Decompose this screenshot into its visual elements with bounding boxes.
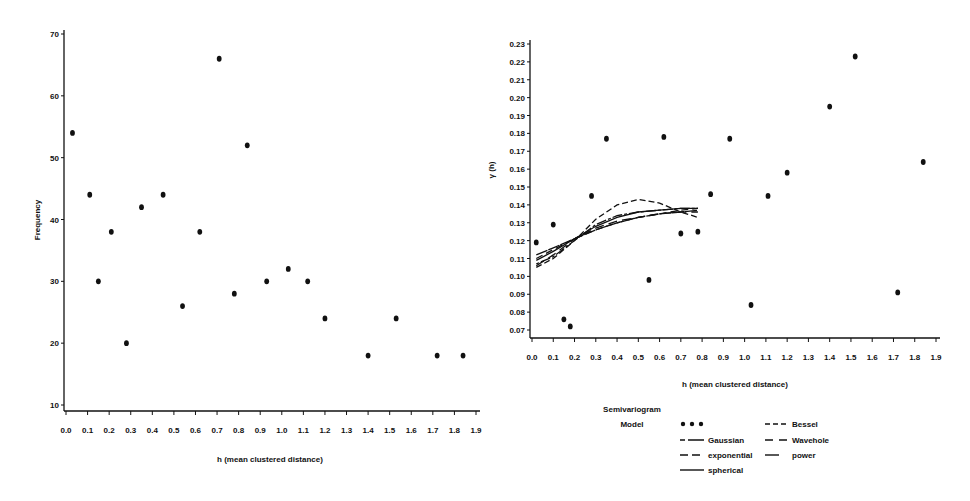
legend-item-gaussian: Gaussian xyxy=(680,436,744,445)
data-point xyxy=(180,303,185,309)
x-tick-label: 1.5 xyxy=(384,426,396,435)
x-tick-label: 0.9 xyxy=(718,353,730,362)
data-point xyxy=(286,266,291,272)
y-tick-label: 0.23 xyxy=(509,40,525,49)
y-tick-label: 30 xyxy=(50,277,59,286)
figure: 102030405060700.00.10.20.30.40.50.60.70.… xyxy=(0,0,970,501)
data-point xyxy=(708,191,713,197)
y-tick-label: 0.12 xyxy=(509,237,525,246)
legend-label-gaussian: Gaussian xyxy=(708,436,744,445)
legend-label-bessel: Bessel xyxy=(792,420,818,429)
x-tick-label: 1.1 xyxy=(760,353,772,362)
y-tick-label: 0.13 xyxy=(509,219,525,228)
x-tick-label: 1.9 xyxy=(470,426,482,435)
left-data-points xyxy=(70,56,465,359)
legend-dot-icon xyxy=(681,422,685,426)
data-point xyxy=(551,222,556,228)
x-tick-label: 1.3 xyxy=(341,426,353,435)
curve-gaussian xyxy=(536,208,698,264)
x-tick-label: 1.5 xyxy=(845,353,857,362)
legend-label-power: power xyxy=(792,451,816,460)
y-tick-label: 40 xyxy=(50,216,59,225)
x-tick-label: 0.8 xyxy=(697,353,709,362)
data-point xyxy=(534,240,539,246)
x-tick-label: 0.3 xyxy=(125,426,137,435)
y-tick-label: 70 xyxy=(50,30,59,39)
semivariogram-chart: 0.070.080.090.100.110.120.130.140.150.16… xyxy=(487,40,942,389)
data-point xyxy=(661,134,666,140)
right-data-points xyxy=(534,54,926,330)
x-tick-label: 0.1 xyxy=(548,353,560,362)
legend-label-wavehole: Wavehole xyxy=(792,436,830,445)
x-tick-label: 0.0 xyxy=(60,426,72,435)
x-tick-label: 1.1 xyxy=(298,426,310,435)
x-tick-label: 1.6 xyxy=(867,353,879,362)
legend-item-empirical xyxy=(681,422,703,426)
y-tick-label: 0.10 xyxy=(509,272,525,281)
data-point xyxy=(245,142,250,148)
data-point xyxy=(561,316,566,322)
y-tick-label: 0.07 xyxy=(509,326,525,335)
x-tick-label: 1.0 xyxy=(739,353,751,362)
data-point xyxy=(161,192,166,198)
data-point xyxy=(139,204,144,210)
x-tick-label: 1.4 xyxy=(824,353,836,362)
frequency-scatter-chart: 102030405060700.00.10.20.30.40.50.60.70.… xyxy=(33,30,482,464)
data-point xyxy=(217,56,222,62)
x-tick-label: 1.3 xyxy=(803,353,815,362)
x-tick-label: 1.0 xyxy=(276,426,288,435)
legend-item-power: power xyxy=(765,451,816,460)
data-point xyxy=(785,170,790,176)
data-point xyxy=(604,136,609,142)
x-tick-label: 0.6 xyxy=(654,353,666,362)
data-point xyxy=(323,316,328,322)
y-tick-label: 0.17 xyxy=(509,147,525,156)
data-point xyxy=(197,229,202,235)
legend-dot-icon xyxy=(699,422,703,426)
data-point xyxy=(895,290,900,296)
data-point xyxy=(921,159,926,165)
data-point xyxy=(232,291,237,297)
data-point xyxy=(305,278,310,284)
data-point xyxy=(678,231,683,237)
y-tick-label: 0.19 xyxy=(509,112,525,121)
data-point xyxy=(749,302,754,308)
curve-bessel xyxy=(536,200,698,268)
x-tick-label: 0.2 xyxy=(104,426,116,435)
right-y-axis-title: γ (h) xyxy=(487,161,496,178)
data-point xyxy=(124,340,129,346)
legend-dot-icon xyxy=(690,422,694,426)
x-tick-label: 1.4 xyxy=(363,426,375,435)
data-point xyxy=(70,130,75,136)
y-tick-label: 0.08 xyxy=(509,308,525,317)
x-tick-label: 0.3 xyxy=(590,353,602,362)
x-tick-label: 1.8 xyxy=(449,426,461,435)
y-tick-label: 0.18 xyxy=(509,129,525,138)
data-point xyxy=(435,353,440,359)
legend-label-spherical: spherical xyxy=(708,466,743,475)
y-tick-label: 0.20 xyxy=(509,94,525,103)
legend-item-bessel: Bessel xyxy=(765,420,818,429)
legend-title-line1: Semivariogram xyxy=(603,405,661,414)
x-tick-label: 0.0 xyxy=(526,353,538,362)
left-axes: 102030405060700.00.10.20.30.40.50.60.70.… xyxy=(50,30,482,435)
data-point xyxy=(695,229,700,235)
x-tick-label: 1.7 xyxy=(888,353,900,362)
x-tick-label: 0.1 xyxy=(82,426,94,435)
data-point xyxy=(109,229,114,235)
data-point xyxy=(766,193,771,199)
legend-title-line2: Model xyxy=(620,420,643,429)
legend-label-exponential: exponential xyxy=(708,451,752,460)
data-point xyxy=(96,278,101,284)
x-tick-label: 0.4 xyxy=(611,353,623,362)
data-point xyxy=(87,192,92,198)
legend-item-wavehole: Wavehole xyxy=(765,436,830,445)
y-tick-label: 60 xyxy=(50,92,59,101)
data-point xyxy=(853,54,858,60)
right-x-axis-title: h (mean clustered distance) xyxy=(682,380,788,389)
x-tick-label: 0.5 xyxy=(168,426,180,435)
legend-item-exponential: exponential xyxy=(680,451,752,460)
data-point xyxy=(589,193,594,199)
x-tick-label: 0.4 xyxy=(147,426,159,435)
data-point xyxy=(827,104,832,110)
